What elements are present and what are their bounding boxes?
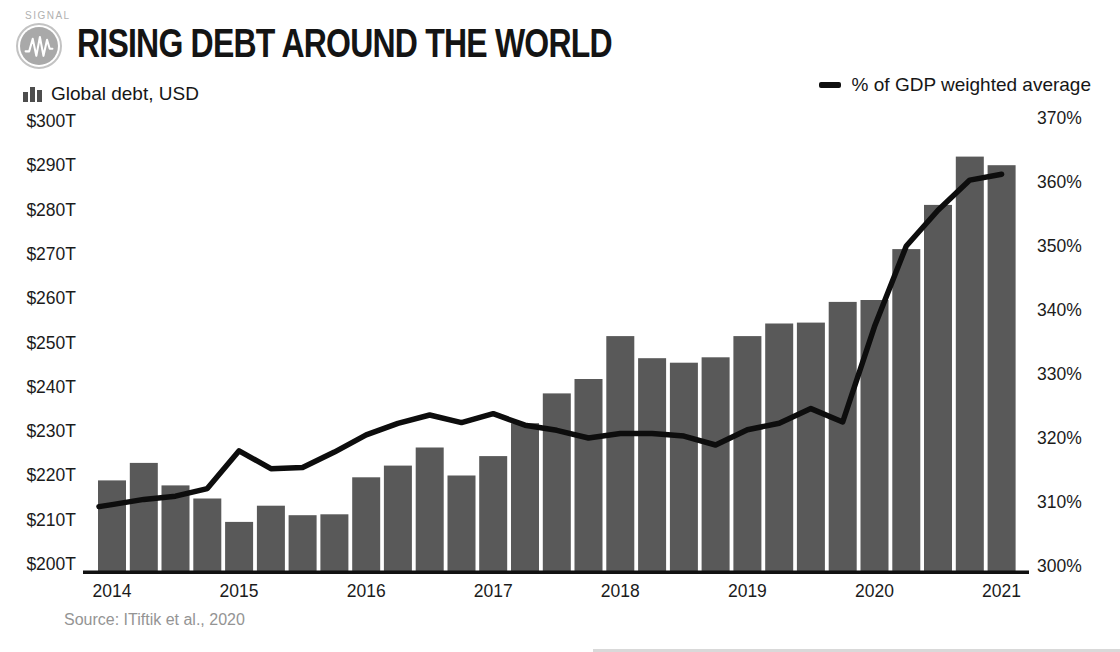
right-axis-tick-310-: 310%	[1037, 492, 1082, 512]
source-note: Source: ITiftik et al., 2020	[64, 611, 245, 629]
bar-2018-q4	[702, 357, 730, 572]
left-axis-tick--220t: $220T	[26, 465, 76, 485]
x-axis-tick-2019: 2019	[728, 581, 767, 601]
bar-2019-q2	[765, 324, 793, 573]
bar-2016-q1	[352, 477, 380, 572]
bar-2017-q1	[479, 456, 507, 572]
x-axis-tick-2014: 2014	[93, 581, 132, 601]
bar-2018-q2	[638, 358, 666, 572]
bar-2016-q4	[448, 476, 476, 573]
bar-2020-q3	[924, 205, 952, 572]
bar-2018-q1	[606, 336, 634, 572]
left-axis-tick--230t: $230T	[26, 421, 76, 441]
bar-2017-q4	[575, 379, 603, 572]
bar-2018-q3	[670, 363, 698, 572]
bar-2015-q3	[289, 515, 317, 572]
bar-2017-q3	[543, 393, 571, 572]
bar-2020-q4	[956, 157, 984, 572]
x-axis-tick-2016: 2016	[347, 581, 386, 601]
x-axis-tick-2020: 2020	[855, 581, 894, 601]
right-axis-tick-300-: 300%	[1037, 556, 1082, 576]
bar-2020-q2	[892, 249, 920, 572]
bar-2020-q1	[861, 300, 889, 572]
left-axis-tick--210t: $210T	[26, 510, 76, 530]
left-axis-tick--240t: $240T	[26, 377, 76, 397]
left-axis-tick--270t: $270T	[26, 244, 76, 264]
bar-2014-q1	[98, 480, 126, 572]
x-axis-line	[83, 571, 1029, 575]
right-axis-tick-360-: 360%	[1037, 172, 1082, 192]
left-axis-tick--250t: $250T	[26, 333, 76, 353]
x-axis-tick-2021: 2021	[982, 581, 1021, 601]
bar-2021-q1	[988, 165, 1016, 572]
x-axis-tick-2017: 2017	[474, 581, 513, 601]
bar-2014-q2	[130, 463, 158, 572]
bar-2019-q3	[797, 323, 825, 572]
right-axis-tick-320-: 320%	[1037, 428, 1082, 448]
bar-2015-q2	[257, 506, 285, 572]
right-axis-tick-370-: 370%	[1037, 108, 1082, 128]
bar-2015-q4	[320, 514, 348, 572]
left-axis-tick--280t: $280T	[26, 200, 76, 220]
bar-2014-q4	[193, 499, 221, 573]
bar-2017-q2	[511, 423, 539, 572]
bar-2019-q4	[829, 302, 857, 572]
debt-combo-chart: $300T$290T$280T$270T$260T$250T$240T$230T…	[0, 0, 1120, 652]
right-axis-tick-340-: 340%	[1037, 300, 1082, 320]
x-axis-tick-2015: 2015	[220, 581, 259, 601]
bar-2016-q3	[416, 448, 444, 573]
infographic-canvas: SIGNAL RISING DEBT AROUND THE WORLD Glob…	[0, 0, 1120, 652]
right-axis-tick-330-: 330%	[1037, 364, 1082, 384]
left-axis-tick--290t: $290T	[26, 155, 76, 175]
right-axis-tick-350-: 350%	[1037, 236, 1082, 256]
left-axis-tick--260t: $260T	[26, 288, 76, 308]
bar-2015-q1	[225, 522, 253, 572]
left-axis-tick--200t: $200T	[26, 554, 76, 574]
bar-2019-q1	[733, 336, 761, 572]
left-axis-tick--300t: $300T	[26, 111, 76, 131]
x-axis-tick-2018: 2018	[601, 581, 640, 601]
bar-2016-q2	[384, 466, 412, 572]
